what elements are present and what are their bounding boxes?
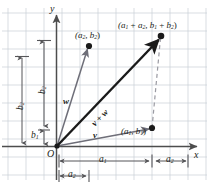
b2-measure-inner-label: b2 — [38, 86, 48, 94]
a2-measure-lower-label: a2 — [68, 170, 76, 180]
b2-inner-base: b — [37, 89, 47, 94]
a1-measure-sub: 1 — [104, 158, 107, 164]
y-axis-label: y — [50, 4, 54, 14]
a2-measure-upper-label: a2 — [166, 155, 174, 165]
x-axis-label: x — [194, 150, 198, 160]
b2-measure-left-label: b2 — [16, 102, 26, 110]
dashed-construction-lines — [152, 38, 161, 128]
w-close-paren: ) — [97, 30, 100, 40]
point-w-label: (a2, b2) — [75, 31, 100, 41]
a1-measure-label: a1 — [99, 155, 107, 165]
a2-upper-sub: 2 — [171, 158, 174, 164]
point-v-dot — [149, 125, 155, 131]
vector-w-label: w — [63, 97, 69, 106]
b2-left-base: b — [15, 105, 25, 110]
b1-sub: 1 — [36, 134, 39, 140]
sum-close-paren: ) — [174, 20, 177, 30]
sum-plus-2: + — [157, 20, 167, 30]
sum-plus-1: + — [128, 20, 138, 30]
dashed-v-to-sum — [152, 38, 161, 128]
origin-label: O — [47, 149, 54, 159]
a2-lower-sub: 2 — [73, 173, 76, 179]
point-origin — [54, 143, 59, 148]
vector-addition-figure: y x O (a1 + a2, b1 + b2) (a2, b2) (a1, b… — [0, 0, 207, 186]
point-w-dot — [86, 43, 92, 49]
point-sum-label: (a1 + a2, b1 + b2) — [118, 21, 177, 31]
b2-inner-sub: 2 — [41, 86, 47, 89]
b1-measure-label: b1 — [31, 131, 39, 141]
vector-v-label: v — [93, 131, 97, 140]
b2-left-sub: 2 — [19, 102, 25, 105]
point-v-label: (a1, b1) — [121, 127, 146, 137]
point-sum-dot — [158, 33, 165, 40]
v-close-paren: ) — [143, 126, 146, 136]
